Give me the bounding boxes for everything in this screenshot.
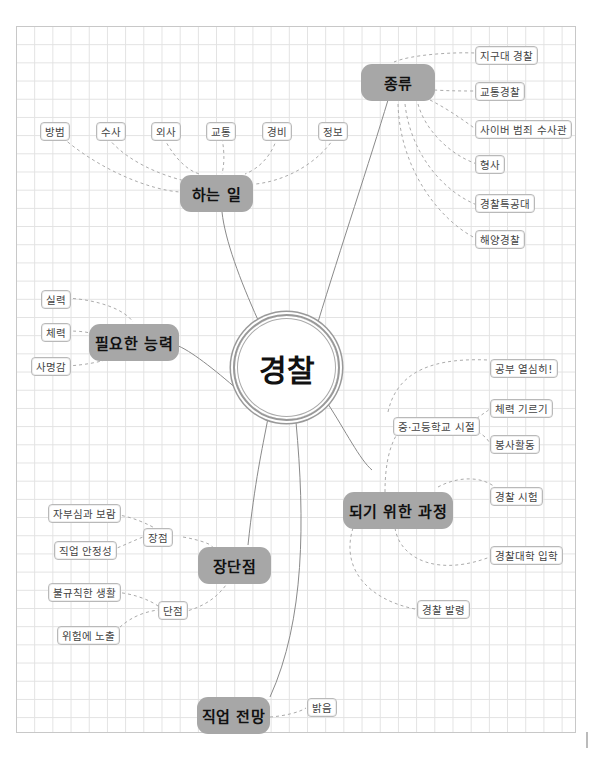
leaf-skill[interactable]: 체력 (41, 323, 71, 342)
leaf-cons[interactable]: 위험에 노출 (57, 626, 120, 645)
leaf-label: 위험에 노출 (62, 628, 115, 643)
leaf-label: 봉사활동 (495, 437, 535, 452)
sub-branch-school[interactable]: 중·고등학교 시절 (393, 417, 480, 436)
branch-label: 직업 전망 (202, 705, 266, 726)
leaf-label: 경비 (267, 124, 287, 139)
leaf-type[interactable]: 경찰특공대 (475, 194, 535, 213)
leaf-label: 방범 (45, 124, 65, 139)
leaf-duty[interactable]: 교통 (206, 122, 236, 141)
branch-skills[interactable]: 필요한 능력 (89, 324, 179, 361)
branch-types[interactable]: 종류 (361, 64, 435, 101)
leaf-label: 외사 (156, 124, 176, 139)
leaf-type[interactable]: 해양경찰 (475, 230, 525, 249)
branch-duties[interactable]: 하는 일 (180, 175, 253, 212)
leaf-school[interactable]: 공부 열심히! (490, 359, 558, 378)
leaf-pros[interactable]: 직업 안정성 (54, 541, 117, 560)
leaf-label: 교통 (211, 124, 231, 139)
leaf-duty[interactable]: 외사 (151, 122, 181, 141)
leaf-label: 직업 안정성 (59, 543, 112, 558)
leaf-type[interactable]: 지구대 경찰 (475, 46, 538, 65)
branch-label: 장단점 (213, 555, 257, 576)
leaf-path[interactable]: 경찰 발령 (417, 600, 470, 619)
leaf-label: 교통경찰 (480, 84, 520, 99)
leaf-type[interactable]: 사이버 범죄 수사관 (475, 120, 572, 139)
leaf-duty[interactable]: 정보 (318, 122, 348, 141)
leaf-outlook[interactable]: 밝음 (307, 698, 337, 717)
branch-path[interactable]: 되기 위한 과정 (343, 492, 453, 529)
leaf-duty[interactable]: 방범 (40, 122, 70, 141)
leaf-label: 수사 (101, 124, 121, 139)
leaf-label: 중·고등학교 시절 (398, 419, 475, 434)
leaf-label: 장점 (148, 530, 168, 545)
leaf-label: 경찰특공대 (480, 196, 530, 211)
leaf-cons[interactable]: 불규칙한 생활 (48, 583, 121, 602)
page-edge-mark (586, 732, 591, 748)
leaf-label: 실력 (46, 292, 66, 307)
sub-branch-cons[interactable]: 단점 (158, 601, 188, 620)
leaf-pros[interactable]: 자부심과 보람 (48, 504, 121, 523)
leaf-label: 체력 (46, 325, 66, 340)
leaf-label: 불규칙한 생활 (53, 585, 116, 600)
sub-branch-pros[interactable]: 장점 (143, 528, 173, 547)
branch-outlook[interactable]: 직업 전망 (197, 697, 270, 734)
leaf-label: 밝음 (312, 700, 332, 715)
leaf-label: 지구대 경찰 (480, 48, 533, 63)
leaf-label: 형사 (480, 157, 500, 172)
leaf-skill[interactable]: 실력 (41, 290, 71, 309)
leaf-duty[interactable]: 경비 (262, 122, 292, 141)
leaf-skill[interactable]: 사명감 (31, 357, 71, 376)
leaf-label: 사명감 (36, 359, 66, 374)
branch-label: 종류 (384, 72, 413, 93)
leaf-path[interactable]: 경찰대학 입학 (490, 546, 563, 565)
leaf-label: 체력 기르기 (495, 401, 548, 416)
leaf-school[interactable]: 체력 기르기 (490, 399, 553, 418)
leaf-type[interactable]: 교통경찰 (475, 82, 525, 101)
branch-label: 필요한 능력 (95, 332, 173, 353)
leaf-label: 사이버 범죄 수사관 (480, 122, 567, 137)
leaf-label: 정보 (323, 124, 343, 139)
leaf-label: 단점 (163, 603, 183, 618)
leaf-school[interactable]: 봉사활동 (490, 435, 540, 454)
leaf-label: 자부심과 보람 (53, 506, 116, 521)
center-node[interactable]: 경찰 (233, 314, 340, 421)
branch-label: 하는 일 (192, 183, 241, 204)
branch-label: 되기 위한 과정 (349, 500, 447, 521)
leaf-type[interactable]: 형사 (475, 155, 505, 174)
leaf-label: 해양경찰 (480, 232, 520, 247)
leaf-duty[interactable]: 수사 (96, 122, 126, 141)
leaf-label: 공부 열심히! (495, 361, 553, 376)
branch-pros-cons[interactable]: 장단점 (198, 547, 271, 584)
leaf-label: 경찰 발령 (422, 602, 465, 617)
center-label: 경찰 (259, 346, 315, 390)
leaf-label: 경찰 시험 (495, 489, 538, 504)
leaf-path[interactable]: 경찰 시험 (490, 487, 543, 506)
leaf-label: 경찰대학 입학 (495, 548, 558, 563)
